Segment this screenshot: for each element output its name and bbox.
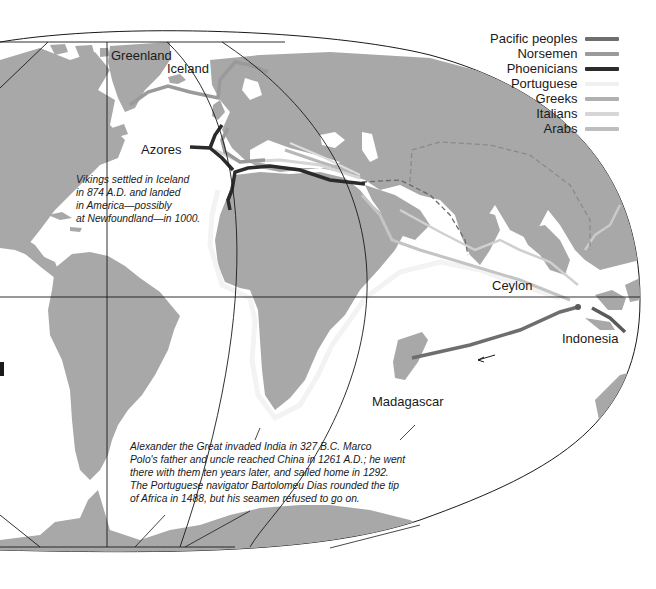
indonesia-dot xyxy=(575,304,581,310)
legend-label: Portuguese xyxy=(511,76,578,91)
label-indonesia: Indonesia xyxy=(562,331,618,346)
label-iceland: Iceland xyxy=(167,61,209,76)
legend-item-norsemen: Norsemen xyxy=(490,46,619,61)
note-line: in America—possibly xyxy=(76,199,200,212)
legend-item-portuguese: Portuguese xyxy=(490,76,619,91)
note-line: in 874 A.D. and landed xyxy=(76,186,200,199)
note-line: Vikings settled in Iceland xyxy=(76,173,200,186)
legend-swatch xyxy=(585,67,619,71)
label-greenland: Greenland xyxy=(111,48,172,63)
legend-label: Pacific peoples xyxy=(490,31,577,46)
note-line: at Newfoundland—in 1000. xyxy=(76,212,200,225)
note-line: Polo's father and uncle reached China in… xyxy=(130,453,405,466)
legend-item-arabs: Arabs xyxy=(490,121,619,136)
legend-item-italians: Italians xyxy=(490,106,619,121)
legend-swatch xyxy=(585,52,619,56)
legend-swatch xyxy=(585,127,619,131)
legend-swatch xyxy=(585,97,619,101)
legend-item-phoenicians: Phoenicians xyxy=(490,61,619,76)
legend-item-pacific-peoples: Pacific peoples xyxy=(490,31,619,46)
note-line: there with them ten years later, and sai… xyxy=(130,466,405,479)
label-madagascar: Madagascar xyxy=(372,394,444,409)
note-line: The Portuguese navigator Bartolomeu Dias… xyxy=(130,479,405,492)
label-azores: Azores xyxy=(141,142,181,157)
legend-swatch xyxy=(585,112,619,116)
legend-swatch xyxy=(585,37,619,41)
legend-label: Norsemen xyxy=(517,46,577,61)
note-explorers: Alexander the Great invaded India in 327… xyxy=(130,440,405,505)
legend: Pacific peoples Norsemen Phoenicians Por… xyxy=(490,31,619,136)
note-line: Alexander the Great invaded India in 327… xyxy=(130,440,405,453)
legend-item-greeks: Greeks xyxy=(490,91,619,106)
legend-label: Phoenicians xyxy=(507,61,578,76)
note-vikings: Vikings settled in Iceland in 874 A.D. a… xyxy=(76,173,200,225)
legend-swatch xyxy=(585,82,619,86)
edge-mark xyxy=(0,362,4,376)
note-line: of Africa in 1488, but his seamen refuse… xyxy=(130,492,405,505)
legend-label: Italians xyxy=(536,106,577,121)
legend-label: Arabs xyxy=(543,121,577,136)
label-ceylon: Ceylon xyxy=(492,278,532,293)
legend-label: Greeks xyxy=(536,91,578,106)
